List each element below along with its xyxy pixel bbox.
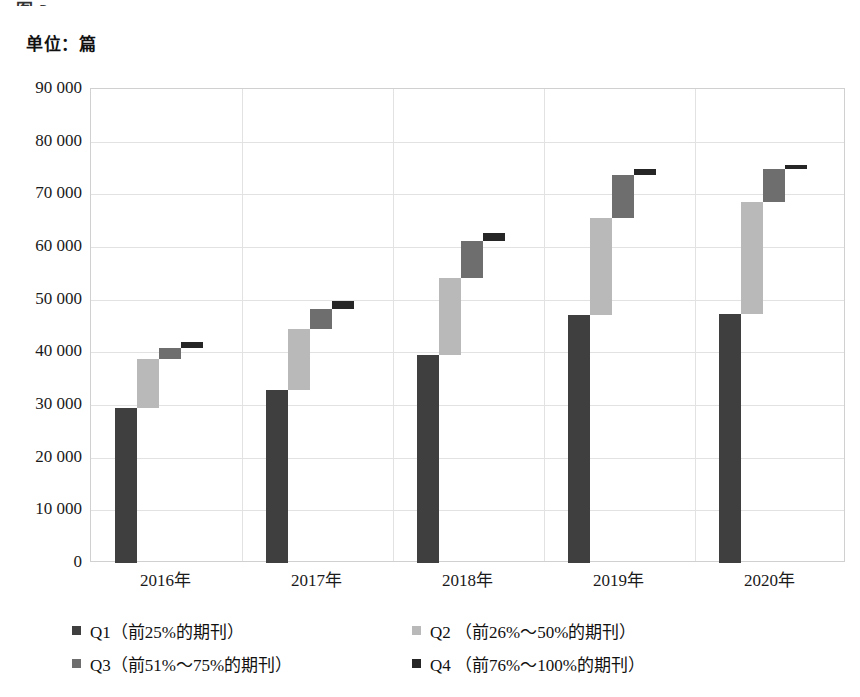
gridline: [91, 194, 844, 195]
category-divider: [242, 89, 243, 561]
bar-segment-q2-4: [741, 202, 763, 314]
legend-label: Q3（前51%～75%的期刊）: [90, 651, 292, 676]
bar-segment-q2-3: [590, 218, 612, 315]
bar-segment-q3-3: [612, 175, 634, 218]
legend-label: Q1（前25%的期刊）: [90, 618, 244, 643]
bar-segment-q4-0: [181, 342, 203, 348]
bar-segment-q3-4: [763, 169, 785, 202]
legend-item-4[interactable]: Q4 （前76%～100%的期刊）: [412, 651, 645, 676]
y-axis-tick-label: 80 000: [2, 131, 82, 151]
bar-segment-q3-1: [310, 309, 332, 329]
category-divider: [544, 89, 545, 561]
legend-label: Q2 （前26%～50%的期刊）: [430, 618, 636, 643]
bar-segment-q4-1: [332, 301, 354, 308]
x-axis-tick-label: 2016年: [90, 566, 241, 591]
legend-swatch-icon: [72, 626, 81, 635]
legend-item-2[interactable]: Q2 （前26%～50%的期刊）: [412, 618, 636, 643]
gridline: [91, 142, 844, 143]
y-axis-labels: 010 00020 00030 00040 00050 00060 00070 …: [0, 88, 82, 562]
y-axis-tick-label: 30 000: [2, 394, 82, 414]
category-divider: [695, 89, 696, 561]
x-axis-tick-label: 2017年: [241, 566, 392, 591]
y-axis-tick-label: 70 000: [2, 183, 82, 203]
category-divider: [393, 89, 394, 561]
y-axis-tick-label: 20 000: [2, 447, 82, 467]
y-axis-tick-label: 90 000: [2, 78, 82, 98]
legend-item-3[interactable]: Q3（前51%～75%的期刊）: [72, 651, 292, 676]
bar-segment-q1-1: [266, 390, 288, 563]
y-axis-tick-label: 0: [2, 552, 82, 572]
bar-segment-q4-3: [634, 169, 656, 175]
bar-segment-q2-2: [439, 278, 461, 355]
bar-segment-q1-2: [417, 355, 439, 563]
bar-segment-q4-4: [785, 165, 807, 169]
legend-swatch-icon: [72, 659, 81, 668]
y-axis-tick-label: 60 000: [2, 236, 82, 256]
bar-segment-q1-4: [719, 314, 741, 563]
legend-item-1[interactable]: Q1（前25%的期刊）: [72, 618, 244, 643]
bar-segment-q2-0: [137, 359, 159, 407]
x-axis-tick-label: 2020年: [694, 566, 845, 591]
x-axis-tick-label: 2018年: [392, 566, 543, 591]
cropped-figure-caption: 图 3: [16, 0, 49, 6]
legend-label: Q4 （前76%～100%的期刊）: [430, 651, 645, 676]
unit-label: 单位：篇: [26, 30, 96, 55]
chart-legend: Q1（前25%的期刊）Q2 （前26%～50%的期刊）Q3（前51%～75%的期…: [72, 618, 772, 684]
y-axis-tick-label: 40 000: [2, 341, 82, 361]
plot-area: [90, 88, 845, 562]
bar-segment-q3-0: [159, 348, 181, 359]
chart-container: 图 3 单位：篇 010 00020 00030 00040 00050 000…: [0, 0, 860, 697]
bar-segment-q1-3: [568, 315, 590, 563]
bar-segment-q3-2: [461, 241, 483, 278]
bar-segment-q4-2: [483, 233, 505, 241]
legend-swatch-icon: [412, 626, 421, 635]
gridline: [91, 300, 844, 301]
bar-segment-q2-1: [288, 329, 310, 390]
y-axis-tick-label: 10 000: [2, 499, 82, 519]
y-axis-tick-label: 50 000: [2, 289, 82, 309]
x-axis-tick-label: 2019年: [543, 566, 694, 591]
bar-segment-q1-0: [115, 408, 137, 563]
legend-swatch-icon: [412, 659, 421, 668]
